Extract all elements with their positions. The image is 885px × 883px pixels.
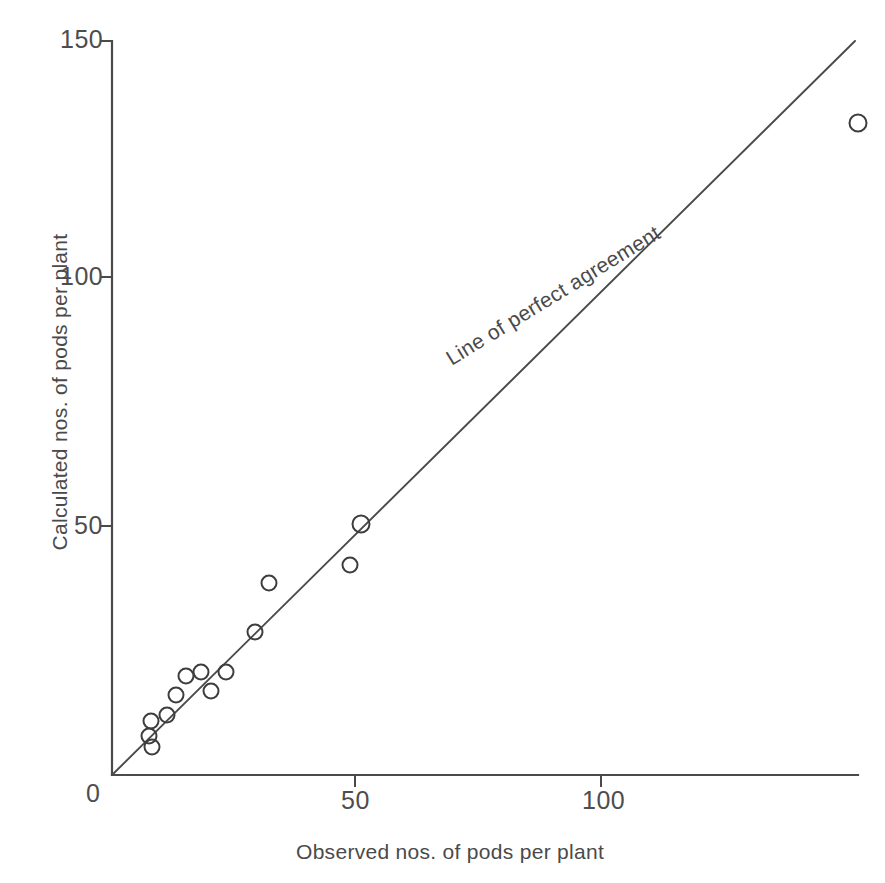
data-point: [262, 576, 277, 591]
data-point: [142, 729, 157, 744]
chart-figure: 150 100 50 0 50 100 Observed nos. of pod…: [0, 0, 885, 883]
y-tick-label-50: 50: [74, 511, 103, 540]
data-point: [343, 558, 358, 573]
y-tick-label-150: 150: [60, 25, 103, 54]
data-point: [145, 740, 160, 755]
x-tick-label-100: 100: [582, 786, 625, 815]
scatter-series: [142, 115, 867, 755]
y-axis-title: Calculated nos. of pods per plant: [48, 232, 72, 552]
data-point: [248, 625, 263, 640]
data-point: [204, 684, 219, 699]
data-point: [169, 688, 184, 703]
x-axis-title: Observed nos. of pods per plant: [296, 840, 604, 864]
data-point-outlier: [850, 115, 867, 132]
data-point: [194, 665, 209, 680]
data-point: [219, 665, 234, 680]
x-tick-label-50: 50: [341, 786, 370, 815]
origin-tick-label: 0: [86, 779, 100, 808]
plot-canvas: [0, 0, 885, 883]
data-point: [179, 669, 194, 684]
data-point: [144, 714, 159, 729]
